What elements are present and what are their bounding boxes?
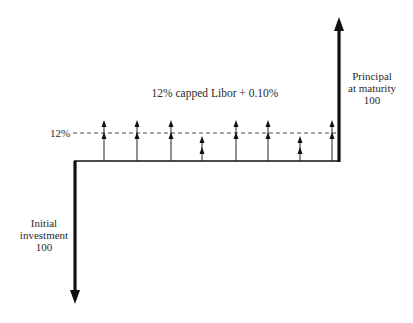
principal-label-line2: at maturity [340, 82, 404, 94]
coupon-arrow-7 [298, 136, 303, 161]
coupon-arrow-8 [330, 120, 335, 161]
cap-rate-label: 12% [50, 127, 72, 139]
principal-amount: 100 [340, 94, 404, 106]
coupon-arrow-4 [200, 136, 205, 161]
coupon-arrow-1 [102, 120, 107, 161]
initial-investment-label: Initial investment 100 [14, 217, 74, 253]
coupon-arrow-2 [135, 120, 140, 161]
cash-flow-diagram: 12% capped Libor + 0.10% 12% Principal a… [0, 0, 413, 323]
initial-amount: 100 [14, 241, 74, 253]
initial-label-line1: Initial [14, 217, 74, 229]
principal-label-line1: Principal [340, 70, 404, 82]
cash-flow-svg [0, 0, 413, 323]
coupon-arrow-3 [169, 120, 174, 161]
initial-label-line2: investment [14, 229, 74, 241]
coupon-arrow-5 [234, 120, 239, 161]
coupon-arrow-6 [266, 120, 271, 161]
principal-label: Principal at maturity 100 [340, 70, 404, 106]
coupon-formula-label: 12% capped Libor + 0.10% [150, 87, 280, 99]
